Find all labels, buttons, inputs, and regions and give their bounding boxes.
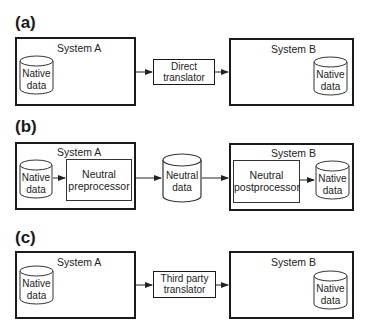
arrows-layer [0,0,371,327]
